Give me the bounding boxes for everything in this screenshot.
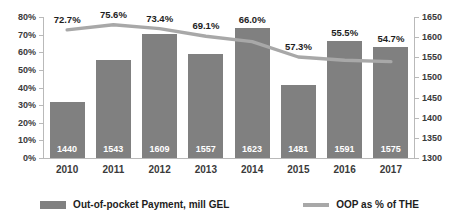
left-axis-tick	[39, 52, 43, 53]
category-label: 2010	[56, 164, 78, 176]
combo-chart: 0%10%20%30%40%50%60%70%80% 1300135014001…	[0, 0, 459, 224]
category-label: 2017	[380, 164, 402, 176]
category-label: 2011	[103, 164, 125, 176]
category-label: 2012	[149, 164, 171, 176]
right-axis-tick	[415, 118, 419, 119]
right-axis-tick-label: 1500	[422, 72, 442, 82]
right-axis-tick-label: 1400	[422, 113, 442, 123]
left-axis-tick	[39, 35, 43, 36]
category-label: 2014	[241, 164, 263, 176]
chart-legend: Out-of-pocket Payment, mill GEL OOP as %…	[0, 196, 459, 214]
left-axis-tick	[39, 105, 43, 106]
right-axis-tick-label: 1550	[422, 52, 442, 62]
line-point-label: 75.6%	[100, 9, 127, 20]
right-axis-tick-label: 1650	[422, 12, 442, 22]
left-axis-tick-label: 30%	[18, 100, 36, 110]
right-axis-tick-label: 1450	[422, 93, 442, 103]
right-axis-tick	[415, 17, 419, 18]
left-axis-tick-label: 80%	[18, 12, 36, 22]
left-axis-tick-label: 70%	[18, 30, 36, 40]
right-axis-tick	[415, 37, 419, 38]
right-axis-tick	[415, 158, 419, 159]
right-axis-tick	[415, 138, 419, 139]
category-axis-line	[43, 158, 415, 159]
line-point-label: 72.7%	[54, 14, 81, 25]
line-point-label: 57.3%	[285, 41, 312, 52]
legend-item-out-of-pocket-payment[interactable]: Out-of-pocket Payment, mill GEL	[40, 199, 229, 211]
left-axis-tick	[39, 158, 43, 159]
line-point-label: 66.0%	[239, 14, 266, 25]
left-axis-tick-label: 60%	[18, 47, 36, 57]
line-point-label: 69.1%	[192, 20, 219, 31]
left-axis-tick-label: 0%	[23, 153, 36, 163]
line-point-label: 55.5%	[331, 27, 358, 38]
legend-item-oop-share-of-the[interactable]: OOP as % of THE	[303, 199, 419, 211]
right-axis-tick-label: 1300	[422, 153, 442, 163]
bar-swatch-icon	[40, 201, 66, 209]
right-axis-tick-label: 1600	[422, 32, 442, 42]
left-axis-tick-label: 20%	[18, 118, 36, 128]
left-axis-tick	[39, 17, 43, 18]
category-label: 2015	[287, 164, 309, 176]
line-swatch-icon	[303, 203, 329, 207]
left-axis-tick	[39, 88, 43, 89]
left-axis-tick-label: 40%	[18, 83, 36, 93]
left-axis-tick-label: 10%	[18, 135, 36, 145]
left-axis-tick	[39, 70, 43, 71]
legend-label: OOP as % of THE	[336, 199, 419, 211]
category-label: 2013	[195, 164, 217, 176]
right-axis-tick	[415, 57, 419, 58]
category-label: 2016	[334, 164, 356, 176]
left-axis-tick	[39, 123, 43, 124]
left-axis-tick-label: 50%	[18, 65, 36, 75]
left-axis-tick	[39, 140, 43, 141]
right-axis-tick	[415, 77, 419, 78]
plot-area: 14401543160915571623148115911575	[44, 17, 414, 158]
line-point-label: 54.7%	[377, 33, 404, 44]
right-axis-tick	[415, 98, 419, 99]
line-series-oop-share-of-the	[44, 17, 414, 158]
legend-label: Out-of-pocket Payment, mill GEL	[73, 199, 229, 211]
right-axis-tick-label: 1350	[422, 133, 442, 143]
line-point-label: 73.4%	[146, 13, 173, 24]
